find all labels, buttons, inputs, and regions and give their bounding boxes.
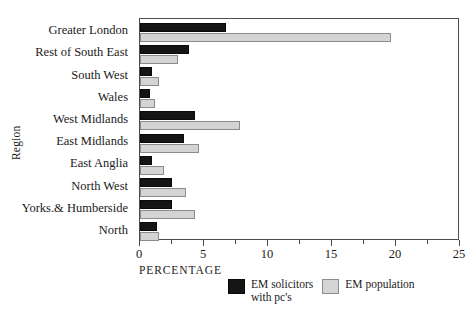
x-tick-major — [139, 240, 140, 246]
bar — [140, 111, 195, 120]
x-tick-major — [203, 240, 204, 246]
bar — [140, 77, 159, 86]
legend-swatch-solicitors — [228, 279, 245, 294]
y-tick-label: East Midlands — [56, 135, 128, 147]
x-tick-label: 10 — [261, 247, 274, 262]
x-tick-minor — [235, 240, 236, 244]
bar-group — [140, 197, 458, 219]
x-tick-minor — [363, 240, 364, 244]
bar — [140, 166, 164, 175]
bar-group — [140, 174, 458, 196]
bar — [140, 33, 391, 42]
x-tick-label: 5 — [200, 247, 206, 262]
x-tick-minor — [427, 240, 428, 244]
x-tick-major — [267, 240, 268, 246]
y-tick-label: South West — [71, 69, 128, 81]
y-tick-label: Greater London — [49, 24, 128, 36]
bar — [140, 67, 152, 76]
legend-item-population: EM population — [322, 278, 414, 294]
y-tick-label: Yorks.& Humberside — [22, 202, 128, 214]
bar-group — [140, 63, 458, 85]
bar — [140, 188, 186, 197]
bar — [140, 45, 189, 54]
legend-swatch-population — [322, 279, 339, 294]
x-tick-label: 15 — [325, 247, 338, 262]
bar-group — [140, 108, 458, 130]
bar — [140, 210, 195, 219]
bar — [140, 156, 152, 165]
bar — [140, 178, 172, 187]
bar — [140, 121, 240, 130]
bar — [140, 89, 150, 98]
bar-group — [140, 219, 458, 241]
bar — [140, 55, 178, 64]
bar-group — [140, 130, 458, 152]
x-tick-major — [331, 240, 332, 246]
y-tick-label: East Anglia — [70, 157, 128, 169]
x-tick-label: 25 — [453, 247, 466, 262]
y-tick-label: Wales — [98, 91, 128, 103]
bar-group — [140, 86, 458, 108]
x-tick-major — [459, 240, 460, 246]
legend-item-solicitors: EM solicitors with pc's — [228, 278, 313, 303]
y-tick-label: North — [99, 224, 128, 236]
x-tick-label: 20 — [389, 247, 402, 262]
bar — [140, 222, 157, 231]
bar — [140, 200, 172, 209]
bar-group — [140, 19, 458, 41]
x-tick-minor — [171, 240, 172, 244]
chart-legend: EM solicitors with pc's EM population — [228, 278, 415, 303]
bar — [140, 23, 226, 32]
chart-figure: Region Greater LondonRest of South EastS… — [0, 0, 472, 318]
bar — [140, 134, 184, 143]
legend-label-population: EM population — [345, 278, 414, 291]
y-axis-tick-labels: Greater LondonRest of South EastSouth We… — [0, 18, 133, 240]
legend-label-solicitors: EM solicitors with pc's — [251, 278, 313, 303]
plot-area — [139, 18, 459, 240]
x-axis-tick-labels: 0510152025 — [0, 247, 472, 263]
x-tick-label: 0 — [136, 247, 142, 262]
y-tick-label: North West — [71, 180, 128, 192]
x-tick-major — [395, 240, 396, 246]
y-tick-label: Rest of South East — [35, 46, 128, 58]
bar — [140, 144, 199, 153]
bar-group — [140, 41, 458, 63]
bar-group — [140, 152, 458, 174]
bar — [140, 99, 155, 108]
x-axis-title: PERCENTAGE — [139, 264, 269, 276]
y-tick-label: West Midlands — [53, 113, 128, 125]
x-tick-minor — [299, 240, 300, 244]
